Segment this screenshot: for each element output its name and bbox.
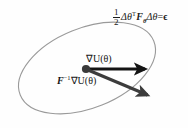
natural-gradient-label: F−1∇U(θ) <box>57 75 96 86</box>
equation-body: ΔθTFθΔθ=ϵ <box>121 11 167 25</box>
natural-gradient-prefix: F <box>57 75 64 86</box>
delta-theta-term: Δθ <box>146 11 157 22</box>
natural-gradient-exponent: −1 <box>64 74 71 81</box>
fraction-numerator: 1 <box>113 8 120 17</box>
fisher-matrix-symbol: F <box>136 11 143 22</box>
natural-gradient-suffix: ∇U(θ) <box>71 75 97 86</box>
epsilon-symbol: ϵ <box>163 11 167 22</box>
gradient-label-text: ∇U(θ) <box>86 53 112 64</box>
gradient-label: ∇U(θ) <box>86 54 112 64</box>
trust-region-equation: 1 2 ΔθTFθΔθ=ϵ <box>113 8 167 28</box>
delta-theta-transpose-term: Δθ <box>121 11 132 22</box>
natural-gradient-figure: 1 2 ΔθTFθΔθ=ϵ ∇U(θ) F−1∇U(θ) <box>0 0 188 128</box>
fraction-denominator: 2 <box>113 18 120 27</box>
origin-point <box>82 65 90 73</box>
one-half-fraction: 1 2 <box>113 8 120 28</box>
